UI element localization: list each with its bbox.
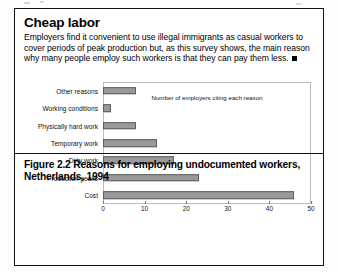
x-axis: 01020304050 [103, 204, 311, 226]
caption-divider [15, 153, 323, 154]
x-tick-mark [311, 201, 312, 204]
bar-category-label: Working conditions [42, 105, 98, 112]
x-tick-mark [103, 201, 104, 204]
x-tick-label: 0 [101, 205, 105, 212]
bar [103, 139, 157, 147]
x-tick-mark [145, 201, 146, 204]
figure-caption: Figure 2.2 Reasons for employing undocum… [24, 159, 316, 183]
x-tick-mark [186, 201, 187, 204]
end-mark-icon [292, 56, 297, 61]
x-tick-label: 40 [266, 205, 273, 212]
bar-category-label: Other reasons [56, 87, 98, 94]
x-tick-label: 50 [307, 205, 314, 212]
scan-artifact [40, 1, 44, 3]
bar-category-label: Cost [84, 192, 98, 199]
bar-row: Working conditions [103, 99, 311, 116]
x-axis-title: Number of employers citing each reason [103, 94, 311, 101]
x-tick-label: 30 [224, 205, 231, 212]
bar [103, 191, 294, 199]
scan-artifact [296, 3, 301, 5]
article-headline: Cheap labor [24, 15, 100, 30]
article-body-text: Employers find it convenient to use ille… [24, 32, 310, 63]
x-tick-mark [228, 201, 229, 204]
x-tick-mark [269, 201, 270, 204]
bar-category-label: Temporary work [51, 139, 98, 146]
page-background: Vanckxe, C. and Groenendijk-Lighteim, J.… [0, 0, 338, 272]
bar-row: Temporary work [103, 134, 311, 151]
x-tick-label: 20 [183, 205, 190, 212]
scan-artifact [24, 2, 30, 4]
x-tick-label: 10 [141, 205, 148, 212]
bar-row: Cost [103, 187, 311, 204]
bar-chart: Other reasonsWorking conditionsPhysicall… [23, 82, 317, 228]
bar [103, 122, 136, 130]
bar [103, 104, 111, 112]
figure-box: Cheap labor Employers find it convenient… [14, 8, 324, 266]
article-body: Employers find it convenient to use ille… [24, 32, 310, 64]
bar-category-label: Physically hard work [38, 122, 98, 129]
bar-row: Physically hard work [103, 117, 311, 134]
